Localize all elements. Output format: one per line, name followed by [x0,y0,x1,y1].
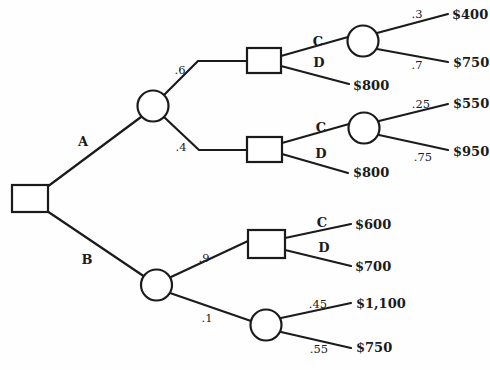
edge-label-branch-b-p1: .1 [202,311,213,325]
edge-label-branch-a: A [77,134,89,149]
payoff-600: $600 [355,217,391,232]
chance-a-6-c-node [348,26,379,57]
edge-label-branch-a-p6: .6 [175,63,186,77]
payoff-750-a: $750 [453,55,489,70]
edge-label-branch-b-p9: .9 [199,251,210,265]
edge-label-branch-b: B [82,252,93,267]
edge-label-branch-a6c-p7: .7 [412,58,423,72]
edge-label-branch-a4-d: D [315,146,326,161]
edge-label-branch-a4-c: C [316,120,326,135]
edge-label-branch-a4c-p75: .75 [414,150,432,164]
decision-b-9-node [248,230,285,258]
edge-branch-b [47,211,145,277]
payoff-950: $950 [453,144,489,159]
chance-b-node [141,270,172,301]
decision-tree-canvas: AB.6.4CD.3.7CD.25.75.9.1CD.45.55$400$750… [0,0,490,370]
payoff-700: $700 [355,259,391,274]
payoff-550: $550 [453,96,489,111]
decision-tree-figure: AB.6.4CD.3.7CD.25.75.9.1CD.45.55$400$750… [0,0,490,370]
edge-label-branch-a6-d: D [313,55,324,70]
payoff-800-a4: $800 [353,165,389,180]
edge-label-branch-b9-d: D [318,240,329,255]
chance-a-node [138,91,169,122]
edge-label-branch-b9-c: C [317,215,327,230]
decision-a-4-node [247,137,282,162]
edge-label-branch-a4c-p25: .25 [412,97,430,111]
payoff-1100: $1,100 [356,296,406,311]
chance-a-4-c-node [349,113,380,144]
payoff-800-a6: $800 [353,78,389,93]
payoff-750-b: $750 [356,340,392,355]
edge-label-branch-a-p4: .4 [176,140,187,154]
edge-branch-b-p9 [171,241,248,277]
edge-label-branch-b1-p55: .55 [310,342,328,356]
payoff-400: $400 [452,7,488,22]
edge-label-branch-b1-p45: .45 [309,297,327,311]
decision-root-node [12,185,48,212]
edge-label-branch-a6-c: C [313,34,323,49]
decision-a-6-node [247,48,281,73]
chance-b-1-node [251,310,282,341]
edge-branch-a [47,117,141,187]
edge-label-branch-a6c-p3: .3 [412,7,423,21]
edge-branch-a4c-p75 [379,135,448,150]
